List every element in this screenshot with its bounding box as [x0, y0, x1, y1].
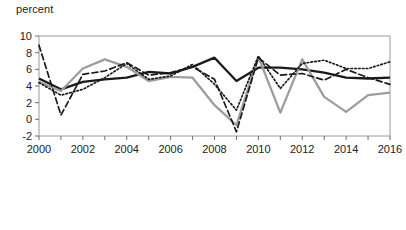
- x-tick-label: 2000: [27, 143, 51, 155]
- y-axis-ticks: -20246810: [20, 30, 39, 142]
- y-tick-label: 6: [26, 63, 32, 75]
- x-tick-label: 2004: [115, 143, 139, 155]
- x-tick-label: 2016: [378, 143, 402, 155]
- y-tick-label: -2: [22, 130, 32, 142]
- x-tick-label: 2010: [246, 143, 270, 155]
- plot-frame: [39, 36, 390, 136]
- y-tick-label: 8: [26, 47, 32, 59]
- economic-growth-line-chart: percent -20246810 2000200220042006200820…: [0, 0, 406, 230]
- y-tick-label: 4: [26, 80, 32, 92]
- chart-canvas: -20246810 200020022004200620082010201220…: [0, 0, 406, 230]
- x-tick-label: 2008: [202, 143, 226, 155]
- x-tick-label: 2012: [290, 143, 314, 155]
- x-axis-ticks: 200020022004200620082010201220142016: [27, 136, 402, 155]
- y-tick-label: 2: [26, 97, 32, 109]
- x-tick-label: 2006: [158, 143, 182, 155]
- x-tick-label: 2002: [71, 143, 95, 155]
- data-series-layer: [39, 45, 390, 132]
- y-tick-label: 0: [26, 113, 32, 125]
- x-tick-label: 2014: [334, 143, 358, 155]
- y-tick-label: 10: [20, 30, 32, 42]
- series-line-thailand: [39, 57, 390, 125]
